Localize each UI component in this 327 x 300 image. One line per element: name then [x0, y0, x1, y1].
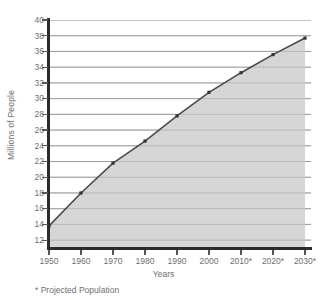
x-tick-label-1990: 1990 — [168, 257, 187, 266]
x-tick-mark-2010 — [240, 250, 241, 255]
y-tick-mark-24 — [42, 145, 48, 146]
x-tick-mark-1990 — [176, 250, 177, 255]
data-point-2030 — [303, 36, 306, 39]
data-point-1990 — [175, 114, 178, 117]
y-axis-title-label: Millions of People — [6, 90, 16, 160]
y-tick-mark-26 — [42, 129, 48, 130]
plot-svg — [49, 20, 311, 248]
area-fill — [49, 38, 305, 248]
y-axis-tick-labels: 403836343230282624222018161412 — [22, 18, 46, 250]
x-axis-title: Years — [0, 269, 327, 279]
y-tick-mark-20 — [42, 177, 48, 178]
data-point-1960 — [79, 191, 82, 194]
x-tick-label-2020: 2020* — [262, 257, 284, 266]
population-area-chart: Millions of People 403836343230282624222… — [0, 0, 327, 300]
x-tick-label-1970: 1970 — [104, 257, 123, 266]
projected-population-footnote: * Projected Population — [35, 285, 119, 295]
data-point-2010 — [239, 71, 242, 74]
y-tick-mark-28 — [42, 114, 48, 115]
y-tick-mark-22 — [42, 161, 48, 162]
plot-area — [49, 20, 311, 248]
x-tick-mark-2000 — [208, 250, 209, 255]
y-tick-mark-30 — [42, 98, 48, 99]
x-tick-label-1980: 1980 — [136, 257, 155, 266]
y-tick-mark-16 — [42, 208, 48, 209]
data-point-1980 — [143, 139, 146, 142]
y-tick-mark-14 — [42, 224, 48, 225]
x-tick-label-1960: 1960 — [72, 257, 91, 266]
y-tick-mark-34 — [42, 67, 48, 68]
x-tick-mark-1970 — [112, 250, 113, 255]
x-tick-label-2000: 2000 — [200, 257, 219, 266]
x-tick-label-1950: 1950 — [40, 257, 59, 266]
y-tick-mark-40 — [42, 19, 48, 20]
y-axis-line — [47, 18, 50, 250]
data-point-2000 — [207, 91, 210, 94]
y-tick-mark-32 — [42, 82, 48, 83]
y-axis-title: Millions of People — [0, 0, 22, 250]
data-point-1970 — [111, 161, 114, 164]
data-point-2020 — [271, 53, 274, 56]
x-tick-label-2010: 2010* — [230, 257, 252, 266]
x-tick-mark-1950 — [48, 250, 49, 255]
x-tick-mark-1980 — [144, 250, 145, 255]
x-tick-label-2030: 2030* — [294, 257, 316, 266]
y-tick-mark-38 — [42, 35, 48, 36]
y-tick-mark-12 — [42, 240, 48, 241]
x-tick-mark-2020 — [272, 250, 273, 255]
y-tick-mark-36 — [42, 51, 48, 52]
x-tick-mark-1960 — [80, 250, 81, 255]
y-tick-mark-18 — [42, 192, 48, 193]
x-tick-mark-2030 — [304, 250, 305, 255]
